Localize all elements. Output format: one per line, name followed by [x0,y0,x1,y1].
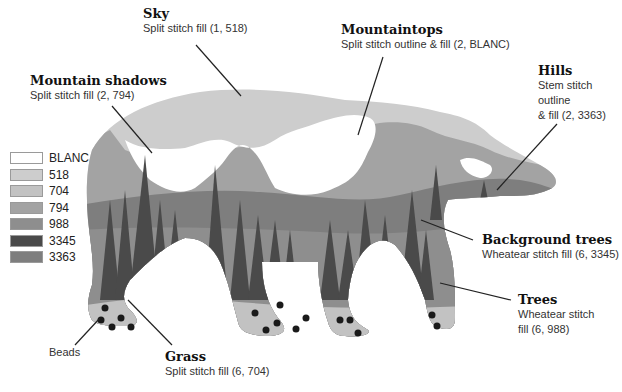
legend-label: 704 [49,184,69,198]
callout-desc: Split stitch fill (2, 794) [30,88,167,103]
legend-label: 3363 [49,250,76,264]
callout-title: Trees [518,292,594,307]
beads-leader [75,318,100,345]
legend-item: 988 [10,216,89,233]
callout-sky: Sky Split stitch fill (1, 518) [143,6,248,36]
callout-title: Grass [165,349,270,364]
callout-beads: Beads [49,346,80,358]
legend-label: 518 [49,168,69,182]
legend-item: 794 [10,200,89,217]
callout-title: Background trees [482,232,619,247]
color-legend: BLANC 518 704 794 988 3345 3363 [10,150,89,266]
legend-swatch [10,235,43,247]
callout-mountaintops: Mountaintops Split stitch outline & fill… [341,22,510,52]
legend-swatch [10,218,43,230]
callout-desc: Wheatear stitch [518,307,594,322]
legend-item: 704 [10,183,89,200]
callout-hills: Hills Stem stitch outline & fill (2, 336… [538,63,622,123]
legend-item: 3363 [10,249,89,266]
callout-title: Sky [143,6,248,21]
legend-item: 3345 [10,233,89,250]
callout-desc: Split stitch fill (6, 704) [165,364,270,379]
legend-label: 988 [49,217,69,231]
sky-leader [196,45,241,96]
callout-desc: Split stitch fill (1, 518) [143,21,248,36]
callout-background-trees: Background trees Wheatear stitch fill (6… [482,232,619,262]
callout-mountain-shadows: Mountain shadows Split stitch fill (2, 7… [30,73,167,103]
legend-item: 518 [10,167,89,184]
legend-label: BLANC [49,151,89,165]
callout-title: Hills [538,63,622,78]
legend-swatch [10,152,43,164]
legend-swatch [10,185,43,197]
callout-desc: fill (6, 988) [518,322,594,337]
legend-label: 794 [49,201,69,215]
callout-desc: & fill (2, 3363) [538,108,622,123]
callout-desc: Wheatear stitch fill (6, 3345) [482,247,619,262]
legend-swatch [10,169,43,181]
callout-grass: Grass Split stitch fill (6, 704) [165,349,270,379]
callout-trees: Trees Wheatear stitch fill (6, 988) [518,292,594,337]
bear-silhouette [80,80,570,350]
callout-title: Mountaintops [341,22,510,37]
legend-label: 3345 [49,234,76,248]
callout-title: Mountain shadows [30,73,167,88]
legend-swatch [10,202,43,214]
callout-desc: Split stitch outline & fill (2, BLANC) [341,37,510,52]
legend-item: BLANC [10,150,89,167]
callout-desc: Stem stitch outline [538,78,622,108]
legend-swatch [10,251,43,263]
